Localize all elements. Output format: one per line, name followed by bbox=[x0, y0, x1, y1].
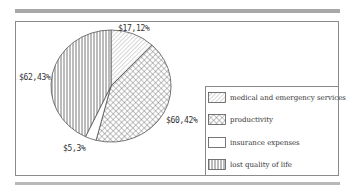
legend-item-medical: medical and emergency services bbox=[208, 92, 346, 103]
data-label-productivity: $60,42% bbox=[166, 116, 198, 125]
legend-item-insurance: insurance expenses bbox=[208, 137, 300, 148]
legend-label: medical and emergency services bbox=[230, 94, 346, 102]
legend-item-productivity: productivity bbox=[208, 114, 273, 125]
legend-item-lost-quality: lost quality of life bbox=[208, 159, 292, 170]
data-label-insurance: $5,3% bbox=[63, 144, 86, 153]
bottom-divider-bar bbox=[15, 182, 340, 185]
legend-label: productivity bbox=[230, 116, 273, 124]
legend-swatch-vertical-lines-icon bbox=[208, 159, 226, 170]
legend-label: lost quality of life bbox=[230, 161, 292, 169]
legend-label: insurance expenses bbox=[230, 139, 300, 147]
data-label-lost-quality: $62,43% bbox=[19, 73, 51, 82]
legend-swatch-blank-icon bbox=[208, 137, 226, 148]
legend-swatch-diagonal-icon bbox=[208, 92, 226, 103]
chart-legend: medical and emergency services productiv… bbox=[205, 86, 339, 176]
data-label-medical: $17,12% bbox=[118, 24, 150, 33]
legend-swatch-crosshatch-icon bbox=[208, 114, 226, 125]
